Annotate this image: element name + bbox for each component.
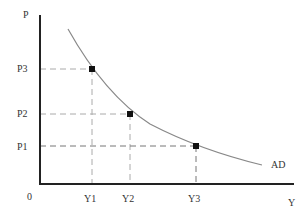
ad-curve (68, 29, 262, 165)
point-p1-y3 (193, 143, 199, 149)
output-label-y3: Y3 (188, 194, 200, 204)
curve-label-ad: AD (271, 160, 285, 170)
x-axis-label: Y (288, 198, 295, 208)
price-label-p2: P2 (17, 109, 28, 119)
output-label-y1: Y1 (84, 194, 96, 204)
output-label-y2: Y2 (122, 194, 134, 204)
origin-label: 0 (27, 192, 32, 202)
point-p3-y1 (89, 66, 95, 72)
y-axis-label: P (23, 10, 29, 20)
price-label-p1: P1 (17, 142, 28, 152)
guide-lines (40, 69, 196, 184)
price-label-p3: P3 (17, 64, 28, 74)
ad-diagram (0, 0, 305, 214)
point-p2-y2 (127, 111, 133, 117)
